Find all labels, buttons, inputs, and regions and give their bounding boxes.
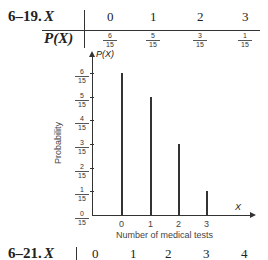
y-tick-label-0: 015 [75,210,89,227]
y-tick-5 [90,97,94,98]
table2-x-0: 0 [92,246,99,260]
table-vertical-divider [84,10,85,48]
table-px-header: P(X) [44,30,73,47]
y-axis-label: Probability [53,122,63,164]
x-tick-label-2: 2 [176,219,181,229]
table-p-1: 515 [146,32,160,49]
x-axis-symbol: X [235,202,241,212]
x-tick-label-1: 1 [148,219,153,229]
x-axis [92,215,252,216]
y-axis [92,56,93,216]
table-horizontal-divider [42,30,260,31]
y-tick-label-4: 415 [75,115,89,132]
table-p-2: 315 [193,32,207,49]
x-axis-arrow-icon [250,212,256,218]
table2-x-3: 3 [203,246,210,260]
x-axis-label: Number of medical tests [116,230,213,240]
y-tick-label-5: 515 [75,92,89,109]
table2-x-header: X [44,245,54,260]
table2-x-2: 2 [165,246,172,260]
problem-619-label: 6–19. [8,8,42,25]
bar-3 [206,191,208,215]
table-p-0: 615 [103,32,117,49]
table-p-3: 115 [238,32,252,49]
y-tick-4 [90,120,94,121]
y-tick-3 [90,144,94,145]
table2-vertical-divider [76,247,77,260]
x-tick-label-0: 0 [119,219,124,229]
y-tick-label-1: 115 [75,186,89,203]
table-x-1: 1 [150,9,157,25]
y-tick-6 [90,73,94,74]
y-axis-symbol: P(X) [96,49,114,59]
y-tick-1 [90,191,94,192]
table-x-2: 2 [197,9,204,25]
bar-2 [178,144,180,215]
y-tick-2 [90,168,94,169]
x-tick-label-3: 3 [204,219,209,229]
problem-621-label: 6–21. [8,245,42,260]
table-x-header: X [44,8,54,25]
table2-x-1: 1 [130,246,137,260]
table-x-0: 0 [107,9,114,25]
y-tick-label-3: 315 [75,139,89,156]
table-x-3: 3 [242,9,249,25]
y-tick-label-6: 615 [75,68,89,85]
y-tick-label-2: 215 [75,163,89,180]
bar-0 [121,73,123,215]
bar-1 [150,97,152,215]
table2-x-4: 4 [241,246,248,260]
y-axis-arrow-icon [89,51,95,57]
